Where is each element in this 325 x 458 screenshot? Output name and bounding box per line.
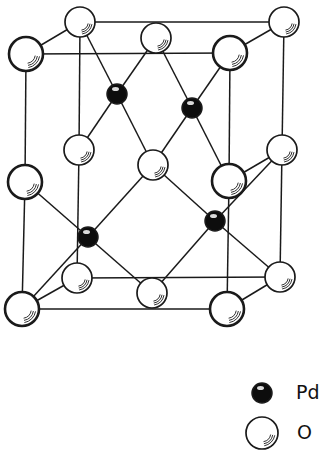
bond-line — [282, 22, 284, 150]
pd-legend-icon — [252, 383, 272, 403]
pd-atom — [205, 211, 225, 231]
legend-icons — [246, 383, 278, 449]
pd-atom — [107, 84, 127, 104]
oxygen-atom — [138, 150, 168, 180]
bond-line — [25, 54, 26, 182]
oxygen-atom — [141, 23, 171, 53]
legend-label-o: O — [297, 421, 312, 443]
oxygen-atom — [137, 278, 167, 308]
oxygen-atom — [213, 36, 247, 70]
oxygen-atom — [269, 7, 299, 37]
oxygen-atom — [62, 263, 92, 293]
pdo-crystal-structure-diagram — [0, 0, 325, 458]
bond-line — [227, 181, 229, 309]
oxygen-atom — [9, 37, 43, 71]
oxygen-legend-icon — [246, 417, 278, 449]
oxygen-atom — [210, 292, 244, 326]
bond-line — [26, 53, 230, 54]
pd-atom — [78, 227, 98, 247]
oxygen-atom — [265, 262, 295, 292]
oxygen-atom — [65, 7, 95, 37]
oxygen-atom — [5, 292, 39, 326]
oxygen-atom — [212, 164, 246, 198]
legend-label-pd: Pd — [296, 381, 320, 403]
bond-line — [77, 277, 280, 278]
bond-line — [229, 53, 230, 181]
bond-line — [77, 150, 79, 278]
oxygen-atom — [64, 135, 94, 165]
oxygen-atom — [8, 165, 42, 199]
bond-line — [280, 150, 282, 277]
pd-atom — [182, 98, 202, 118]
oxygen-atom — [267, 135, 297, 165]
bond-line — [22, 182, 25, 309]
bond-line — [79, 22, 80, 150]
